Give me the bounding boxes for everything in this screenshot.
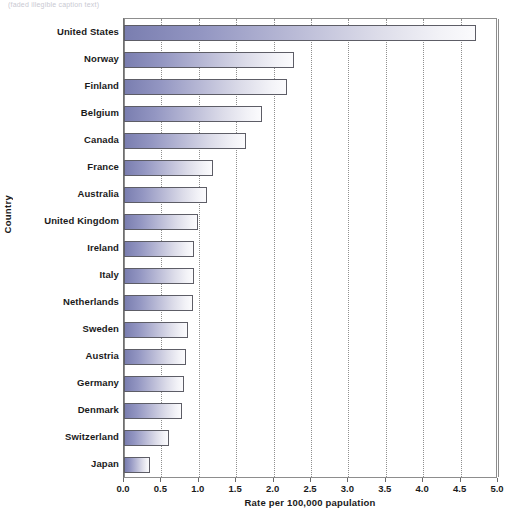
bar-row bbox=[124, 100, 496, 127]
x-axis-title: Rate per 100,000 papulation bbox=[123, 497, 497, 508]
bar-row bbox=[124, 19, 496, 46]
bar-row bbox=[124, 344, 496, 371]
bar-row bbox=[124, 317, 496, 344]
bar bbox=[124, 187, 207, 203]
x-tick-mark bbox=[310, 478, 311, 482]
bar-row bbox=[124, 425, 496, 452]
y-axis-tick-label: Netherlands bbox=[1, 296, 119, 307]
x-tick-label: 4.5 bbox=[440, 483, 480, 494]
y-axis-tick-label: Finland bbox=[1, 80, 119, 91]
x-tick-label: 3.0 bbox=[327, 483, 367, 494]
x-tick-mark bbox=[422, 478, 423, 482]
y-axis-tick-label: Norway bbox=[1, 53, 119, 64]
y-axis-tick-label: Austria bbox=[1, 350, 119, 361]
x-tick-mark bbox=[273, 478, 274, 482]
x-tick-mark bbox=[198, 478, 199, 482]
x-tick-label: 2.5 bbox=[290, 483, 330, 494]
bar-row bbox=[124, 371, 496, 398]
bar-row bbox=[124, 154, 496, 181]
bar-row bbox=[124, 398, 496, 425]
y-axis-tick-label: Germany bbox=[1, 377, 119, 388]
bar-row bbox=[124, 73, 496, 100]
x-tick-mark bbox=[160, 478, 161, 482]
bar bbox=[124, 322, 188, 338]
bar bbox=[124, 268, 194, 284]
y-axis-tick-label: Denmark bbox=[1, 404, 119, 415]
bar bbox=[124, 214, 198, 230]
y-axis-tick-label: Switzerland bbox=[1, 431, 119, 442]
x-tick-label: 0.0 bbox=[103, 483, 143, 494]
bar bbox=[124, 106, 262, 122]
x-tick-mark bbox=[235, 478, 236, 482]
y-axis-tick-label: Canada bbox=[1, 134, 119, 145]
top-caption: (faded illegible caption text) bbox=[8, 0, 158, 9]
bar-row bbox=[124, 263, 496, 290]
x-tick-label: 4.0 bbox=[402, 483, 442, 494]
x-tick-mark bbox=[123, 478, 124, 482]
bar-chart: (faded illegible caption text) Country U… bbox=[0, 0, 515, 515]
bar-row bbox=[124, 46, 496, 73]
bar bbox=[124, 241, 194, 257]
bar bbox=[124, 457, 150, 473]
bar bbox=[124, 52, 294, 68]
bar bbox=[124, 133, 246, 149]
plot-area bbox=[123, 18, 497, 478]
y-axis-tick-label: France bbox=[1, 161, 119, 172]
bar bbox=[124, 403, 182, 419]
x-tick-label: 0.5 bbox=[140, 483, 180, 494]
x-tick-mark bbox=[347, 478, 348, 482]
x-tick-label: 1.0 bbox=[178, 483, 218, 494]
y-axis-tick-label: Japan bbox=[1, 458, 119, 469]
bar bbox=[124, 160, 213, 176]
bar-row bbox=[124, 181, 496, 208]
x-tick-label: 5.0 bbox=[477, 483, 515, 494]
bar-row bbox=[124, 127, 496, 154]
x-tick-mark bbox=[497, 478, 498, 482]
bar-row bbox=[124, 235, 496, 262]
y-axis-tick-label: Belgium bbox=[1, 107, 119, 118]
x-tick-mark bbox=[460, 478, 461, 482]
y-axis-tick-label: Sweden bbox=[1, 323, 119, 334]
bar-row bbox=[124, 452, 496, 479]
y-axis-tick-label: United Kingdom bbox=[1, 215, 119, 226]
bar bbox=[124, 295, 193, 311]
bar bbox=[124, 349, 186, 365]
y-axis-tick-label: Australia bbox=[1, 188, 119, 199]
x-tick-label: 2.0 bbox=[253, 483, 293, 494]
bar bbox=[124, 79, 287, 95]
y-axis-tick-label: Ireland bbox=[1, 242, 119, 253]
y-axis-tick-labels: United StatesNorwayFinlandBelgiumCanadaF… bbox=[0, 18, 119, 478]
gridline bbox=[498, 19, 499, 477]
y-axis-tick-label: United States bbox=[1, 26, 119, 37]
bar bbox=[124, 376, 184, 392]
y-axis-tick-label: Italy bbox=[1, 269, 119, 280]
bar bbox=[124, 25, 476, 41]
x-tick-label: 1.5 bbox=[215, 483, 255, 494]
x-tick-label: 3.5 bbox=[365, 483, 405, 494]
x-tick-mark bbox=[385, 478, 386, 482]
bar-row bbox=[124, 208, 496, 235]
bar-row bbox=[124, 290, 496, 317]
x-axis-ticks: 0.00.51.01.52.02.53.03.54.04.55.0 bbox=[123, 478, 497, 496]
bar bbox=[124, 430, 169, 446]
